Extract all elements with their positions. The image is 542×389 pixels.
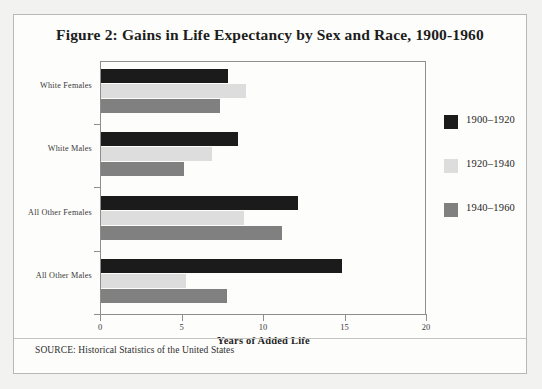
y-axis-tick (94, 251, 101, 252)
x-axis-tick-label: 10 (259, 322, 268, 332)
x-axis-tick (345, 315, 346, 321)
category-label: All Other Males (36, 271, 92, 280)
legend-label: 1940–1960 (466, 202, 515, 213)
category-label: All Other Females (28, 208, 92, 217)
legend-item: 1920–1940 (444, 159, 542, 203)
y-axis-tick (94, 187, 101, 188)
x-axis-tick (100, 315, 101, 321)
bar-1940-1960 (101, 289, 227, 303)
bar-1940-1960 (101, 162, 184, 176)
legend-item: 1940–1960 (444, 203, 542, 247)
figure-title: Figure 2: Gains in Life Expectancy by Se… (14, 26, 526, 44)
x-axis-tick (263, 315, 264, 321)
bar-1940-1960 (101, 99, 220, 113)
chart-legend: 1900–1920 1920–1940 1940–1960 (444, 115, 542, 247)
category-label: White Females (40, 81, 92, 90)
bar-1920-1940 (101, 84, 246, 98)
legend-swatch-icon (444, 203, 458, 217)
legend-label: 1920–1940 (466, 158, 515, 169)
source-note: SOURCE: Historical Statistics of the Uni… (35, 345, 234, 355)
bar-1920-1940 (101, 274, 186, 288)
bar-1920-1940 (101, 211, 244, 225)
y-axis-tick (94, 124, 101, 125)
bar-1900-1920 (101, 196, 298, 210)
legend-item: 1900–1920 (444, 115, 542, 159)
x-axis-tick (182, 315, 183, 321)
bar-1920-1940 (101, 147, 212, 161)
bar-1900-1920 (101, 259, 342, 273)
legend-swatch-icon (444, 115, 458, 129)
category-label: White Males (48, 144, 92, 153)
bar-1940-1960 (101, 226, 282, 240)
x-axis-tick-label: 15 (340, 322, 349, 332)
x-axis-tick-label: 0 (98, 322, 102, 332)
legend-swatch-icon (444, 159, 458, 173)
bar-1900-1920 (101, 69, 228, 83)
figure-frame: Figure 2: Gains in Life Expectancy by Se… (13, 14, 527, 374)
legend-label: 1900–1920 (466, 114, 515, 125)
x-axis-tick-label: 5 (179, 322, 183, 332)
x-axis-tick (426, 315, 427, 321)
source-divider (14, 338, 526, 339)
x-axis-tick-label: 20 (422, 322, 431, 332)
bar-1900-1920 (101, 132, 238, 146)
